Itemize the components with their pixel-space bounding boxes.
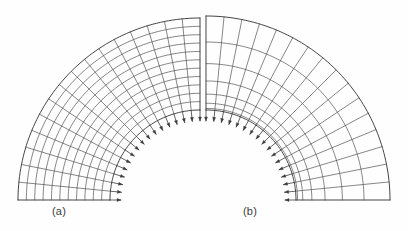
mesh-panel-a bbox=[18, 18, 202, 202]
figure-root: (a) (b) bbox=[0, 0, 408, 231]
mesh-panel-b bbox=[205, 16, 391, 202]
mesh-diagram-canvas bbox=[0, 0, 408, 231]
panel-label-b: (b) bbox=[243, 205, 257, 217]
panel-label-a: (a) bbox=[52, 205, 66, 217]
